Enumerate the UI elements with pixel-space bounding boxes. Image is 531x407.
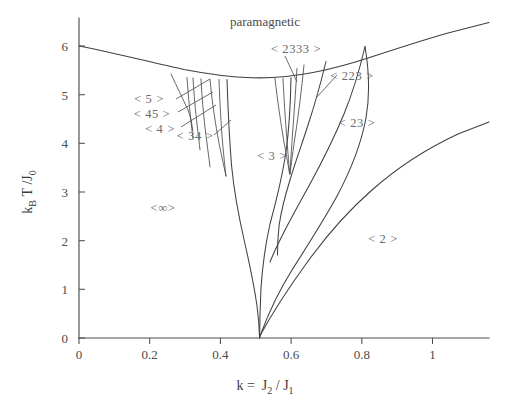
region-3-label: < 3 > (257, 149, 287, 163)
label-4: < 4 > (145, 122, 175, 136)
x-axis-title: k = J2 / J1 (236, 378, 293, 396)
boundary-34-b (210, 80, 226, 177)
y-tick-label: 3 (62, 185, 69, 200)
label-34: < 34 > (177, 129, 213, 143)
svg-text:kB T /J0: kB T /J0 (20, 170, 38, 214)
leader-4 (181, 105, 216, 127)
x-tick-label: 0.4 (212, 347, 229, 362)
x-tick-label: 0.8 (354, 347, 370, 362)
x-axis-title-den-sub: 1 (289, 385, 294, 396)
x-tick-label: 1 (429, 347, 436, 362)
phase-boundaries (79, 23, 489, 339)
region-2-label: < 2 > (368, 232, 398, 246)
leader-lines (176, 56, 337, 135)
paramagnetic-label: paramagnetic (230, 14, 300, 29)
label-2333: < 2333 > (271, 42, 321, 56)
region-infinity-label: <∞> (151, 201, 176, 215)
y-tick-labels: 0 1 2 3 4 5 6 (62, 39, 69, 346)
boundary-2-lower (260, 122, 489, 336)
svg-text:k = J2 / J1: k = J2 / J1 (236, 378, 293, 396)
phase-diagram-plot: 0 1 2 3 4 5 6 0 0.2 0.4 0.6 0.8 1 k = J2… (0, 0, 531, 407)
y-tick-label: 2 (62, 234, 69, 249)
y-tick-label: 4 (62, 136, 69, 151)
y-axis-title-k: k (20, 207, 35, 214)
label-5: < 5 > (134, 92, 164, 106)
x-tick-label: 0.6 (283, 347, 300, 362)
y-tick-label: 6 (62, 39, 69, 54)
phase-diagram-figure: 0 1 2 3 4 5 6 0 0.2 0.4 0.6 0.8 1 k = J2… (0, 0, 531, 407)
axis-lines (79, 18, 489, 338)
y-axis-title-j-sub: 0 (27, 170, 38, 175)
label-23: < 23 > (339, 116, 375, 130)
x-axis-title-lead: k = (236, 378, 255, 393)
y-tick-label: 5 (62, 88, 69, 103)
x-tick-label: 0 (76, 347, 83, 362)
boundary-4 (201, 79, 210, 167)
phase-annotations: paramagnetic <∞> < 3 > < 2 > < 5 > < 45 … (134, 14, 398, 246)
y-tick-label: 1 (62, 282, 69, 297)
y-axis-ticks (79, 46, 85, 338)
boundary-infinity-to-3 (227, 80, 260, 339)
label-45: < 45 > (134, 107, 170, 121)
y-axis-title: kB T /J0 (20, 170, 38, 214)
label-223: < 223 > (330, 69, 373, 83)
x-tick-labels: 0 0.2 0.4 0.6 0.8 1 (76, 347, 436, 362)
y-tick-label: 0 (62, 331, 69, 346)
x-tick-label: 0.2 (142, 347, 158, 362)
x-axis-ticks (79, 338, 433, 344)
